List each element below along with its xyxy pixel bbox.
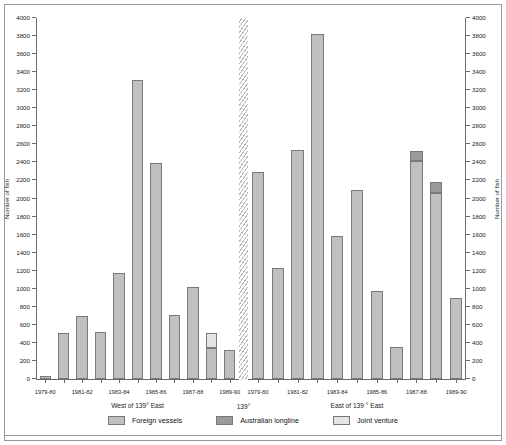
- y-tick-label: 1200: [16, 268, 30, 274]
- bar: [113, 273, 124, 379]
- x-tick-label: 1981-82: [72, 389, 93, 395]
- y-tick-mark: [466, 360, 470, 361]
- x-tick-mark: [119, 379, 120, 383]
- x-tick-mark: [193, 379, 194, 383]
- bar: [390, 347, 402, 379]
- x-tick-mark: [416, 379, 417, 383]
- bar: [291, 150, 303, 379]
- bar: [351, 190, 363, 379]
- y-axis-left-title: Number of fish: [3, 179, 10, 219]
- legend-label: Australian longline: [240, 416, 299, 425]
- y-tick-mark: [466, 107, 470, 108]
- chart-screenshot: Number of fish Number of fish 0020020040…: [0, 0, 506, 445]
- bar: [224, 350, 235, 379]
- bar-segment: [206, 348, 217, 379]
- y-tick-label: 1800: [472, 213, 486, 219]
- y-tick-mark: [466, 324, 470, 325]
- bar-segment: [76, 316, 87, 379]
- y-tick-label: 1600: [16, 231, 30, 237]
- legend-label: Joint venture: [357, 416, 398, 425]
- x-tick-mark: [436, 379, 437, 383]
- x-tick-mark: [174, 379, 175, 383]
- bar-segment: [272, 268, 284, 379]
- y-tick-label: 800: [20, 304, 30, 310]
- bar: [169, 315, 180, 379]
- y-tick-mark: [466, 252, 470, 253]
- y-tick-label: 1400: [16, 250, 30, 256]
- y-tick-mark: [466, 89, 470, 90]
- y-tick-mark: [466, 125, 470, 126]
- y-tick-label: 4000: [16, 15, 30, 21]
- legend-label: Foreign vessels: [132, 416, 182, 425]
- y-tick-mark: [466, 198, 470, 199]
- bar: [76, 316, 87, 379]
- y-tick-label: 2600: [472, 141, 486, 147]
- bar-segment: [224, 350, 235, 379]
- bar: [150, 163, 161, 379]
- y-tick-label: 200: [472, 358, 482, 364]
- x-tick-label: 1985-86: [366, 389, 387, 395]
- x-tick-mark: [258, 379, 259, 383]
- y-tick-mark: [466, 71, 470, 72]
- y-tick-mark: [466, 35, 470, 36]
- bar-segment: [206, 333, 217, 347]
- y-tick-mark: [466, 378, 470, 379]
- x-tick-label: 1983-84: [327, 389, 348, 395]
- y-tick-mark: [466, 17, 470, 18]
- bar-segment: [430, 193, 442, 379]
- x-tick-label: 1981-82: [287, 389, 308, 395]
- y-tick-label: 1800: [16, 213, 30, 219]
- y-tick-label: 2600: [16, 141, 30, 147]
- bar-segment: [252, 172, 264, 379]
- y-tick-label: 600: [20, 322, 30, 328]
- y-tick-label: 2200: [16, 177, 30, 183]
- y-tick-mark: [466, 342, 470, 343]
- y-tick-mark: [466, 270, 470, 271]
- y-tick-mark: [466, 216, 470, 217]
- y-tick-label: 2800: [472, 123, 486, 129]
- y-tick-label: 400: [472, 340, 482, 346]
- bar: [58, 333, 69, 379]
- bar: [331, 236, 343, 379]
- y-tick-label: 400: [20, 340, 30, 346]
- x-tick-mark: [101, 379, 102, 383]
- x-tick-mark: [138, 379, 139, 383]
- panel-title-west: West of 139° East: [111, 402, 164, 409]
- y-tick-label: 200: [20, 358, 30, 364]
- legend-item: Foreign vessels: [108, 416, 182, 425]
- legend-item: Joint venture: [333, 416, 398, 425]
- y-tick-label: 4000: [472, 15, 486, 21]
- y-tick-label: 0: [27, 376, 30, 382]
- y-tick-label: 3400: [16, 69, 30, 75]
- bar: [95, 332, 106, 379]
- bar-group-east: 1979-801981-821983-841985-861987-881989-…: [248, 18, 466, 379]
- x-tick-mark: [278, 379, 279, 383]
- bar-segment: [410, 151, 422, 161]
- y-tick-label: 3200: [472, 87, 486, 93]
- x-tick-mark: [156, 379, 157, 383]
- bar: [311, 34, 323, 379]
- x-tick-mark: [357, 379, 358, 383]
- x-tick-label: 1985-86: [146, 389, 167, 395]
- y-tick-label: 2400: [472, 159, 486, 165]
- bar-segment: [450, 298, 462, 379]
- y-tick-label: 3800: [472, 33, 486, 39]
- legend-swatch: [333, 416, 350, 425]
- y-tick-label: 800: [472, 304, 482, 310]
- y-tick-mark: [466, 306, 470, 307]
- y-tick-mark: [466, 161, 470, 162]
- bar-segment: [113, 273, 124, 379]
- y-tick-label: 3600: [472, 51, 486, 57]
- x-tick-mark: [45, 379, 46, 383]
- panel-divider: [239, 18, 248, 380]
- x-tick-label: 1989-90: [446, 389, 467, 395]
- bar: [252, 172, 264, 379]
- x-tick-label: 1987-88: [406, 389, 427, 395]
- y-tick-label: 2000: [472, 195, 486, 201]
- y-tick-label: 3000: [472, 105, 486, 111]
- bar-segment: [430, 182, 442, 192]
- bar: [132, 80, 143, 379]
- y-tick-label: 3800: [16, 33, 30, 39]
- y-tick-label: 2200: [472, 177, 486, 183]
- bar-segment: [291, 150, 303, 379]
